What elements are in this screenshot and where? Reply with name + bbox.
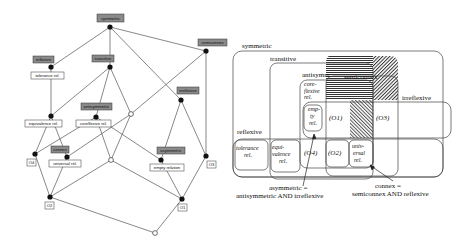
region-coreflexive-3: rel. <box>304 94 312 100</box>
concept-lattice <box>35 27 206 233</box>
region-O2: (O2) <box>328 149 342 157</box>
node-connex[interactable] <box>64 154 69 159</box>
label-symmetric: symmetric <box>101 16 120 21</box>
venn-label-symmetric: symmetric <box>242 42 272 50</box>
region-O3: (O3) <box>376 114 390 122</box>
region-universal-1: univ- <box>352 143 364 149</box>
label-O3: O3 <box>209 162 215 167</box>
label-irreflexive: irreflexive <box>179 88 198 93</box>
region-O1: (O1) <box>329 114 343 122</box>
region-equivalence-2: valence <box>272 151 291 157</box>
venn-diagram: symmetric transitive antisymm. semiconne… <box>233 42 451 200</box>
label-empty: empty relation <box>154 165 181 170</box>
annotation-asymmetric-1: asymmetric = <box>269 184 307 192</box>
node-O3[interactable] <box>203 153 208 158</box>
region-equivalence-1: equi- <box>272 144 284 150</box>
label-coreflexive: coreflexive rel. <box>80 121 107 126</box>
set-reflexive[interactable] <box>233 139 443 177</box>
node-irreflexive[interactable] <box>178 97 183 102</box>
region-tolerance-2: rel. <box>244 152 252 158</box>
annotation-connex-2: semiconnex AND reflexive <box>352 190 429 198</box>
region-universal-3: rel. <box>354 157 362 163</box>
region-equivalence-3: rel. <box>279 158 287 164</box>
label-reflexive: reflexive <box>36 57 52 62</box>
label-equivalence: equivalence rel. <box>29 121 58 126</box>
node-empty-circle-bottom[interactable] <box>153 231 158 236</box>
region-empty-3: rel. <box>309 120 317 126</box>
label-O1: O1 <box>180 205 186 210</box>
region-coreflexive-1: core- <box>304 81 316 87</box>
node-O2[interactable] <box>47 194 52 199</box>
node-asymmetric[interactable] <box>158 157 163 162</box>
diagram-canvas: symmetric reflexive transitive semiconne… <box>0 0 466 243</box>
label-antisymmetric: antisymmetric <box>84 104 110 109</box>
region-empty-2: ty <box>310 113 315 119</box>
annotation-asymmetric-2: antisymmetric AND irreflexive <box>236 192 323 200</box>
region-empty-1: emp- <box>308 106 320 112</box>
region-tolerance-1: tolerance <box>236 145 259 151</box>
label-transitive: transitive <box>95 56 112 61</box>
node-O4[interactable] <box>32 151 37 156</box>
attribute-labels: symmetric reflexive transitive semiconne… <box>33 14 227 154</box>
label-asymmetric: asymmetric <box>160 148 181 153</box>
label-semiconnex: semiconnex <box>201 40 224 45</box>
label-tolerance: tolerance rel. <box>35 73 59 78</box>
label-connex: connex <box>53 147 67 152</box>
node-antisymmetric[interactable] <box>93 114 98 119</box>
venn-label-semiconnex: semiconnex <box>344 73 378 81</box>
node-equivalence[interactable] <box>48 113 53 118</box>
node-empty-circle-2[interactable] <box>109 158 114 163</box>
label-O4: O4 <box>29 160 35 165</box>
annotation-connex-1: connex = <box>375 182 401 190</box>
label-O2: O2 <box>47 203 53 208</box>
node-empty-circle-1[interactable] <box>129 112 134 117</box>
node-O1[interactable] <box>179 196 184 201</box>
node-symmetric[interactable] <box>107 24 112 29</box>
node-reflexive[interactable] <box>48 64 53 69</box>
venn-label-transitive: transitive <box>270 55 296 63</box>
venn-label-reflexive: reflexive <box>237 128 262 136</box>
label-universal: universal rel. <box>53 161 77 166</box>
venn-label-antisymm: antisymm. <box>302 71 332 79</box>
region-universal-2: ersal <box>353 150 365 156</box>
venn-label-irreflexive: irreflexive <box>402 94 431 102</box>
hatch-diagonal-mid <box>350 100 373 138</box>
node-semiconnex[interactable] <box>203 48 208 53</box>
node-transitive[interactable] <box>107 64 112 69</box>
